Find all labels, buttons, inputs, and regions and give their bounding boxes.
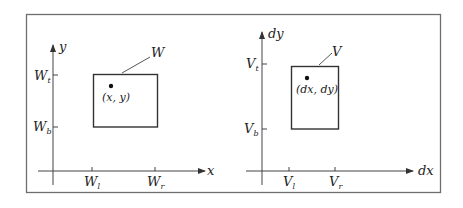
device-point [305,76,309,80]
x-axis-label: x [207,163,215,178]
dx-axis-label: dx [418,163,434,178]
window-viewport-diagram: y x Wt Wb Wl Wr W (x, y) dy dx Vt Vb [0,0,463,208]
outer-frame [27,15,441,193]
device-viewport-label: V [332,44,343,59]
dy-axis-label: dy [268,26,284,41]
world-point-label: (x, y) [102,91,130,104]
device-point-label: (dx, dy) [296,83,338,96]
y-axis-label: y [58,39,67,54]
world-point [109,84,113,88]
world-window-label: W [151,45,166,60]
